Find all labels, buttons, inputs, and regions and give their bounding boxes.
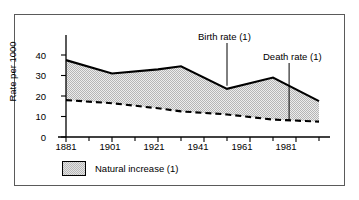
x-tick-label-1881: 1881	[47, 141, 85, 152]
x-tick-label-1981: 1981	[267, 141, 305, 152]
legend-label-natural-increase: Natural increase (1)	[95, 163, 178, 174]
annotation-death-rate: Death rate (1)	[263, 51, 322, 62]
figure-canvas: Rate per 1000 40 30 20 10 0 1881 1901 19…	[0, 0, 359, 200]
y-tick-label-30: 30	[24, 70, 46, 81]
y-axis-title: Rate per 1000	[7, 36, 18, 108]
x-tick-label-1901: 1901	[91, 141, 129, 152]
y-tick-label-20: 20	[24, 91, 46, 102]
legend: Natural increase (1)	[62, 161, 178, 176]
x-tick-label-1941: 1941	[179, 141, 217, 152]
annotation-birth-rate: Birth rate (1)	[198, 31, 251, 42]
x-tick-label-1921: 1921	[135, 141, 173, 152]
y-tick-label-0: 0	[24, 132, 46, 143]
x-tick-label-1961: 1961	[223, 141, 261, 152]
legend-swatch-natural-increase	[62, 161, 86, 176]
y-tick-label-10: 10	[24, 111, 46, 122]
y-tick-label-40: 40	[24, 50, 46, 61]
